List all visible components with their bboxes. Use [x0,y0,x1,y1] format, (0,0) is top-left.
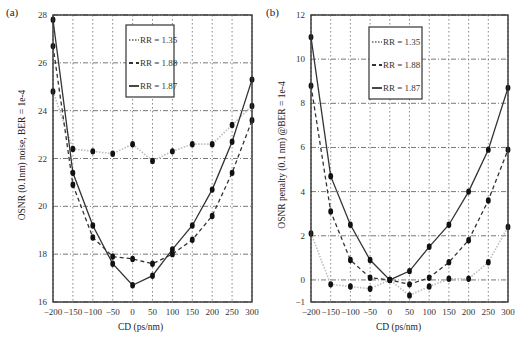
chart-panel-a: (a) OSNR (0.1nm) noise, BER = 1e-4 CD (p… [0,0,264,350]
data-point-marker [348,257,353,263]
data-point-marker [348,222,353,228]
data-point-marker [486,146,491,152]
y-tick-label: 2 [301,231,306,241]
legend-label: RR = 1.88 [140,58,178,68]
data-point-marker [368,275,373,281]
x-tick-label: 100 [422,307,436,317]
data-point-marker [447,276,452,282]
data-point-marker [110,253,115,259]
legend-label: RR = 1.35 [383,37,421,47]
x-tick-label: −100 [341,307,360,317]
chart-panel-b: (b) OSNR penalty (0.1 nm) @BER = 1e-4 CD… [264,0,528,350]
data-point-marker [486,197,491,203]
x-tick-label: 0 [388,307,393,317]
legend-label: RR = 1.35 [140,35,178,45]
data-point-marker [368,286,373,292]
data-point-marker [190,141,195,147]
y-tick-label: −1 [295,297,305,307]
x-tick-label: −50 [106,307,121,317]
data-point-marker [170,246,175,252]
data-point-marker [466,237,471,243]
y-tick-label: 4 [301,187,306,197]
y-tick-label: 20 [38,201,48,211]
y-tick-label: 12 [296,10,305,20]
data-point-marker [210,213,215,219]
data-point-marker [170,148,175,154]
data-point-marker [230,170,235,176]
x-tick-label: 200 [462,307,476,317]
data-point-marker [230,122,235,128]
data-point-marker [210,186,215,192]
x-tick-label: 300 [501,307,515,317]
y-tick-label: 16 [38,297,48,307]
data-point-marker [368,257,373,263]
data-point-marker [71,146,76,152]
x-tick-label: 300 [245,307,259,317]
data-point-marker [130,282,135,288]
data-point-marker [348,283,353,289]
data-point-marker [427,244,432,250]
data-point-marker [110,151,115,157]
data-point-marker [230,139,235,145]
x-tick-label: 50 [148,307,158,317]
data-point-marker [130,141,135,147]
plot-area: −200−150−100−50050100150200250300−102468… [264,0,528,350]
data-point-marker [71,182,76,188]
x-tick-label: 150 [186,307,200,317]
y-tick-label: 22 [38,154,47,164]
data-point-marker [407,268,412,274]
data-point-marker [447,259,452,265]
data-point-marker [466,276,471,282]
y-tick-label: 24 [38,106,48,116]
x-tick-label: 250 [225,307,239,317]
data-point-marker [150,261,155,267]
y-tick-label: 6 [301,142,306,152]
data-point-marker [328,281,333,287]
legend-label: RR = 1.88 [383,60,421,70]
legend-label: RR = 1.87 [140,81,178,91]
y-tick-label: 10 [296,54,306,64]
data-point-marker [328,208,333,214]
x-tick-label: −100 [84,307,103,317]
plot-area: −200−150−100−500501001502002503001618202… [0,0,264,350]
x-tick-label: 0 [130,307,135,317]
y-tick-label: 0 [301,275,306,285]
data-point-marker [150,272,155,278]
data-point-marker [447,222,452,228]
data-point-marker [387,277,392,283]
series-line [53,92,252,161]
data-point-marker [130,256,135,262]
data-point-marker [210,141,215,147]
data-point-marker [328,173,333,179]
x-tick-label: 50 [405,307,415,317]
x-tick-label: 250 [482,307,496,317]
data-point-marker [90,148,95,154]
y-tick-label: 26 [38,58,48,68]
data-point-marker [190,237,195,243]
data-point-marker [407,281,412,287]
x-tick-label: −150 [321,307,340,317]
data-point-marker [90,234,95,240]
data-point-marker [150,158,155,164]
y-tick-label: 8 [301,98,306,108]
data-point-marker [486,259,491,265]
data-point-marker [427,275,432,281]
x-tick-label: −200 [302,307,321,317]
data-point-marker [427,283,432,289]
x-tick-label: 150 [442,307,456,317]
data-point-marker [407,292,412,298]
y-tick-label: 28 [38,10,48,20]
data-point-marker [71,170,76,176]
y-tick-label: 18 [38,249,48,259]
x-tick-label: −50 [363,307,378,317]
legend-label: RR = 1.87 [383,83,421,93]
legend: RR = 1.35RR = 1.88RR = 1.87 [126,25,178,97]
legend: RR = 1.35RR = 1.88RR = 1.87 [369,27,422,99]
x-tick-label: 200 [205,307,219,317]
data-point-marker [190,222,195,228]
x-tick-label: −200 [44,307,63,317]
x-tick-label: 100 [166,307,180,317]
data-point-marker [110,261,115,267]
x-tick-label: −150 [64,307,83,317]
data-point-marker [90,222,95,228]
